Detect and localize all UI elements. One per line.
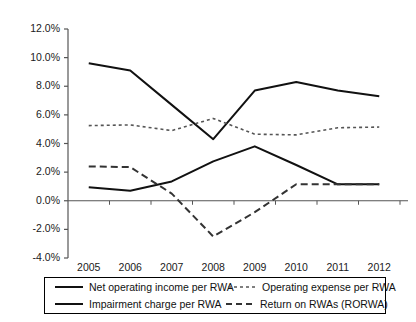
y-axis-tick-label: 10.0% [0, 51, 60, 63]
legend-row-2: Impairment charge per RWA Return on RWAs… [45, 295, 385, 312]
legend-item-impairment-charge[interactable]: Impairment charge per RWA [45, 295, 225, 312]
y-axis-tick-label: 4.0% [0, 137, 60, 149]
y-axis-tick-label: 6.0% [0, 108, 60, 120]
legend-item-rorwa[interactable]: Return on RWAs (RORWA) [225, 295, 385, 312]
y-axis-tick-label: -2.0% [0, 222, 60, 234]
x-axis-tick-label: 2011 [317, 261, 359, 273]
series-layer [89, 63, 380, 236]
y-axis-tick-label: 2.0% [0, 165, 60, 177]
series-line-1 [89, 118, 380, 134]
x-axis-tick-label: 2005 [68, 261, 110, 273]
legend-label: Return on RWAs (RORWA) [260, 298, 388, 310]
y-axis-tick-label: -4.0% [0, 251, 60, 263]
long-dashed-line-swatch [225, 299, 255, 309]
x-axis-tick-label: 2006 [110, 261, 152, 273]
legend-label: Operating expense per RWA [262, 281, 396, 293]
x-axis-tick-label: 2009 [234, 261, 276, 273]
legend-item-operating-expense[interactable]: Operating expense per RWA [227, 278, 387, 295]
solid-line-swatch [54, 282, 84, 292]
x-axis-tick-label: 2007 [151, 261, 193, 273]
legend-label: Impairment charge per RWA [89, 298, 221, 310]
x-axis-tick-label: 2010 [276, 261, 318, 273]
fine-dashed-line-swatch [227, 282, 257, 292]
legend-row-1: Net operating income per RWA Operating e… [45, 278, 385, 295]
solid-line-swatch [54, 299, 84, 309]
y-axis-tick-label: 0.0% [0, 194, 60, 206]
legend-item-net-operating-income[interactable]: Net operating income per RWA [45, 278, 227, 295]
chart-legend: Net operating income per RWA Operating e… [44, 277, 386, 314]
x-axis-tick-label: 2008 [193, 261, 235, 273]
y-axis-tick-label: 12.0% [0, 22, 60, 34]
y-axis-tick-label: 8.0% [0, 79, 60, 91]
legend-label: Net operating income per RWA [89, 281, 234, 293]
line-chart-plot [0, 0, 416, 322]
x-axis-tick-label: 2012 [359, 261, 401, 273]
chart-figure: 12.0%10.0%8.0%6.0%4.0%2.0%0.0%-2.0%-4.0%… [0, 0, 416, 322]
